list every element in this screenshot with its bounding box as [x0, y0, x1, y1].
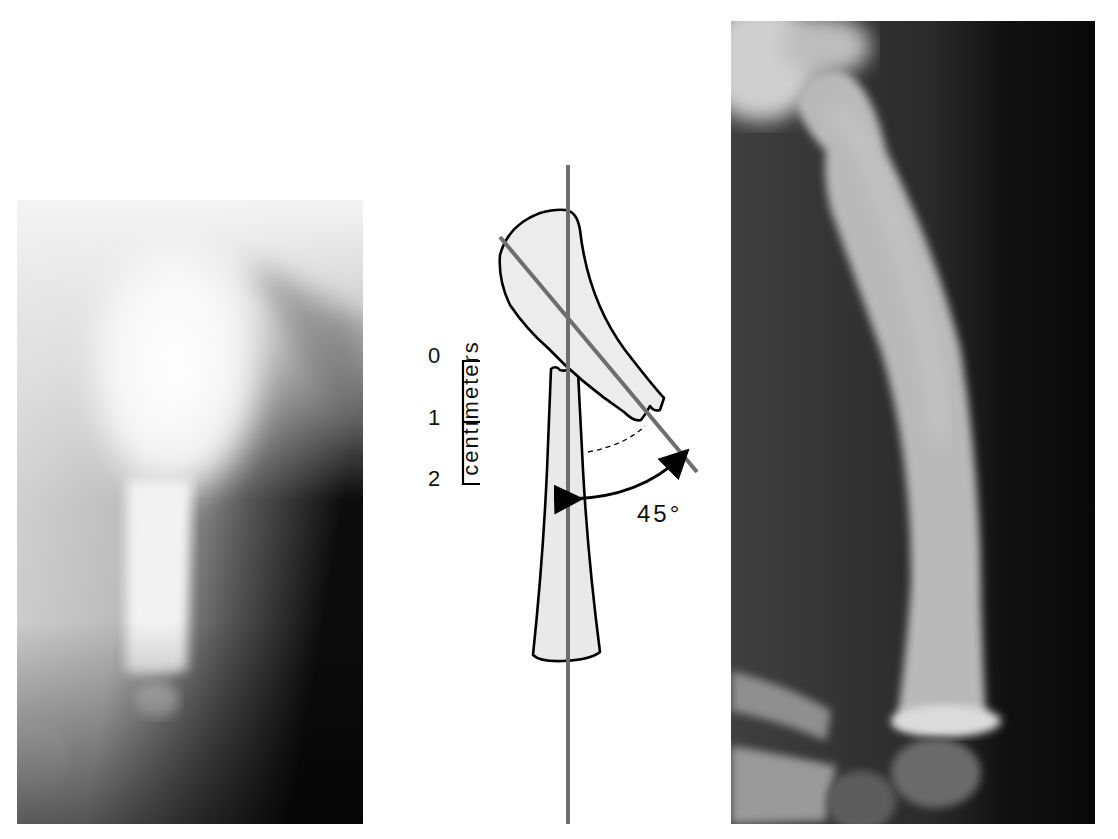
radiograph-healed [731, 21, 1095, 824]
scale-tick-1: 1 [428, 405, 441, 431]
scale-tick-2: 2 [428, 466, 441, 492]
fracture-angle-diagram [380, 150, 720, 839]
dashed-arc [588, 426, 645, 452]
radiograph-healed-image [731, 21, 1095, 824]
scale-title: centimeters [458, 308, 484, 508]
radiograph-fracture-image [17, 200, 363, 824]
radiograph-fracture [17, 200, 363, 824]
angle-label: 45° [637, 500, 682, 528]
angle-arrow [572, 457, 681, 499]
proximal-fragment-outline [500, 210, 664, 421]
scale-tick-0: 0 [428, 343, 441, 369]
angulated-axis-line [500, 237, 697, 472]
fracture-diagram-drawing [380, 150, 720, 839]
